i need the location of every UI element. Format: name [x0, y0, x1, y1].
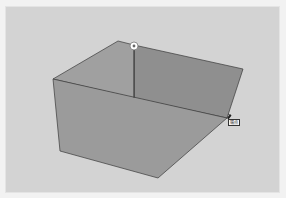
model-viewport[interactable]: 端点	[5, 6, 280, 193]
model-geometry[interactable]	[1, 1, 286, 198]
inference-tooltip: 端点	[228, 119, 240, 126]
endpoint-marker-icon	[130, 42, 138, 50]
